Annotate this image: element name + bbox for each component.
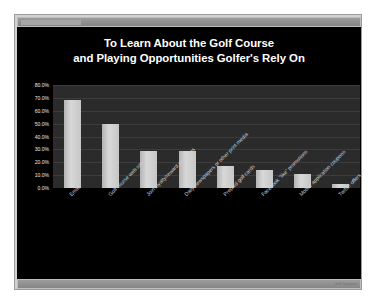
bar <box>64 100 81 188</box>
bar <box>332 184 349 188</box>
y-axis-tick-label: 70.0% <box>35 95 49 101</box>
gridline <box>53 137 360 138</box>
gridline <box>53 124 360 125</box>
gridline <box>53 85 360 86</box>
title-line-1: To Learn About the Golf Course <box>17 36 361 51</box>
page-title: To Learn About the Golf Course and Playi… <box>17 36 361 66</box>
bar <box>140 151 157 188</box>
slide-frame: To Learn About the Golf Course and Playi… <box>14 14 362 290</box>
gridline <box>53 111 360 112</box>
bar <box>102 124 119 188</box>
chrome-highlight <box>21 20 81 25</box>
bar <box>256 170 273 188</box>
title-line-2: and Playing Opportunities Golfer's Rely … <box>17 51 361 66</box>
gridline <box>53 175 360 176</box>
gridline <box>53 149 360 150</box>
plot-area <box>53 85 360 188</box>
y-axis-tick-label: 30.0% <box>35 146 49 152</box>
y-axis-tick-label: 50.0% <box>35 121 49 127</box>
bar <box>217 166 234 188</box>
bar <box>179 151 196 188</box>
y-axis-tick-label: 40.0% <box>35 134 49 140</box>
y-axis-tick-label: 0.0% <box>38 185 49 191</box>
gridline <box>53 162 360 163</box>
y-axis-tick-label: 80.0% <box>35 82 49 88</box>
window-chrome-bottom: Golf Datatech <box>17 279 361 289</box>
y-axis-tick-label: 20.0% <box>35 159 49 165</box>
gridline <box>53 98 360 99</box>
window-chrome-top <box>17 17 361 27</box>
footer-credit: Golf Datatech <box>335 281 357 288</box>
y-axis-tick-label: 10.0% <box>35 172 49 178</box>
slide-canvas: To Learn About the Golf Course and Playi… <box>17 27 361 279</box>
y-axis: 80.0%70.0%60.0%50.0%40.0%30.0%20.0%10.0%… <box>17 85 51 188</box>
bar <box>294 174 311 188</box>
y-axis-tick-label: 60.0% <box>35 108 49 114</box>
